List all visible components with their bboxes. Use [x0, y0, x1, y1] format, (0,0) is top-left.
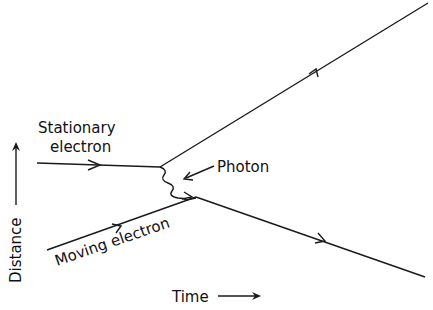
stationary-electron-line — [37, 160, 160, 170]
electron-label: electron — [50, 138, 111, 156]
time-axis-label: Time — [171, 288, 209, 306]
photon-pointer-line — [186, 166, 214, 178]
photon-wavy-line — [160, 167, 196, 200]
scattered-electron-lower-line — [196, 197, 425, 277]
scattered-electron-upper-line — [160, 3, 428, 167]
arrowhead-icon — [315, 233, 325, 243]
photon-label: Photon — [217, 158, 269, 176]
distance-axis-label: Distance — [7, 217, 25, 283]
feynman-diagram: Stationary electron Photon Moving electr… — [0, 0, 433, 310]
stationary-label: Stationary — [38, 119, 116, 137]
